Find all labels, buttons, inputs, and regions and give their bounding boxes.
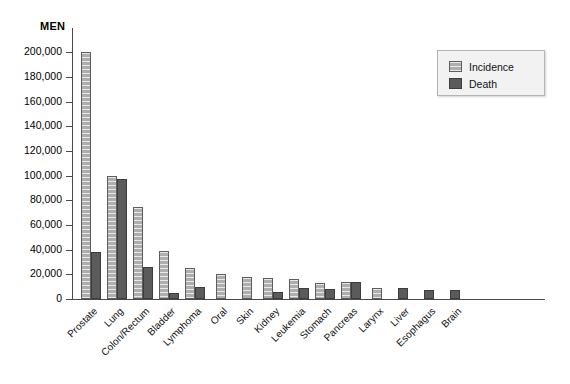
bar-cluster [340, 40, 362, 299]
bar-incidence [81, 52, 91, 299]
y-tick-label: 100,000 [24, 169, 62, 181]
bar-death [143, 267, 153, 299]
bar-cluster [210, 40, 232, 299]
legend-label-death: Death [469, 78, 497, 90]
bar-cluster [288, 40, 310, 299]
bar-death [91, 252, 101, 299]
incidence-swatch-icon [449, 61, 462, 72]
chart-title: MEN [40, 20, 65, 32]
legend-item-incidence: Incidence [449, 58, 544, 75]
legend-item-death: Death [449, 75, 544, 92]
y-tick-label: 20,000 [30, 267, 62, 279]
bar-cluster [392, 40, 414, 299]
cancer-statistics-bar-chart: MEN 020,00040,00060,00080,000100,000120,… [0, 0, 570, 384]
bar-cluster [80, 40, 102, 299]
y-tick-label: 80,000 [30, 193, 62, 205]
bar-cluster [106, 40, 128, 299]
bar-cluster [262, 40, 284, 299]
y-tick-label: 180,000 [24, 70, 62, 82]
y-tick-mark [66, 299, 72, 300]
y-tick-label: 200,000 [24, 45, 62, 57]
bar-incidence [242, 277, 252, 299]
y-tick-label: 40,000 [30, 243, 62, 255]
y-tick-label: 140,000 [24, 119, 62, 131]
chart-legend: Incidence Death [437, 50, 545, 96]
y-tick-label: 0 [56, 292, 62, 304]
y-tick-label: 160,000 [24, 95, 62, 107]
death-swatch-icon [449, 78, 462, 89]
bar-cluster [366, 40, 388, 299]
bar-cluster [236, 40, 258, 299]
legend-label-incidence: Incidence [469, 61, 514, 73]
bar-cluster [158, 40, 180, 299]
bar-cluster [132, 40, 154, 299]
bar-incidence [133, 207, 143, 300]
bar-cluster [314, 40, 336, 299]
y-tick-label: 120,000 [24, 144, 62, 156]
y-tick-label: 60,000 [30, 218, 62, 230]
